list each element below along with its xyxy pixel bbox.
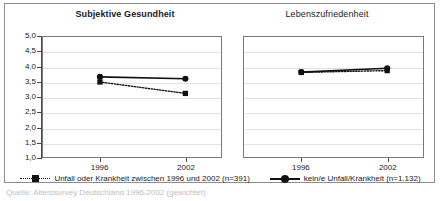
source-note: Quelle: Alterssurvey Deutschland 1996-20… bbox=[6, 188, 206, 197]
x-tick-label: 2002 bbox=[379, 163, 397, 172]
data-point-marker bbox=[183, 91, 188, 96]
y-tick-label: 4,5 bbox=[14, 47, 36, 55]
x-tick-mark bbox=[388, 158, 389, 162]
legend-label-kein-unfall: kein/e Unfall/Krankheit (n=1.132) bbox=[304, 174, 421, 183]
series-layer-left bbox=[43, 37, 221, 157]
legend-label-unfall-krankheit: Unfall oder Krankheit zwischen 1996 und … bbox=[54, 174, 249, 183]
data-point-marker bbox=[97, 74, 103, 80]
y-tick-label: 1,5 bbox=[14, 139, 36, 147]
plot-panel-subjektive-gesundheit bbox=[42, 36, 222, 158]
data-point-marker bbox=[384, 65, 390, 71]
series-line bbox=[100, 82, 185, 93]
series-line bbox=[100, 77, 185, 79]
x-tick-mark bbox=[186, 158, 187, 162]
y-tick-label: 4,0 bbox=[14, 63, 36, 71]
y-tick-label: 3,5 bbox=[14, 78, 36, 86]
panel-title-lebenszufriedenheit: Lebenszufriedenheit bbox=[227, 9, 427, 19]
y-axis-left: 5,04,54,03,53,02,52,01,51,0 bbox=[15, 30, 42, 164]
x-tick-mark bbox=[301, 158, 302, 162]
y-tick-label: 5,0 bbox=[14, 32, 36, 40]
x-tick-label: 2002 bbox=[177, 163, 195, 172]
data-point-marker bbox=[182, 76, 188, 82]
data-point-marker bbox=[97, 79, 102, 84]
legend-entry-unfall-krankheit: Unfall oder Krankheit zwischen 1996 und … bbox=[20, 174, 249, 183]
legend-key-solid-circle-icon bbox=[270, 174, 300, 183]
legend-key-dotted-square-icon bbox=[20, 174, 50, 183]
series-layer-right bbox=[244, 37, 423, 157]
y-tick-label: 2,0 bbox=[14, 124, 36, 132]
chart-figure: Subjektive Gesundheit Lebenszufriedenhei… bbox=[4, 3, 435, 183]
panel-title-subjektive-gesundheit: Subjektive Gesundheit bbox=[25, 9, 225, 19]
x-tick-mark bbox=[100, 158, 101, 162]
x-tick-label: 1996 bbox=[91, 163, 109, 172]
y-tick-label: 2,5 bbox=[14, 108, 36, 116]
plot-panel-lebenszufriedenheit bbox=[243, 36, 424, 158]
x-tick-label: 1996 bbox=[292, 163, 310, 172]
data-point-marker bbox=[298, 69, 304, 75]
y-tick-label: 1,0 bbox=[14, 154, 36, 162]
y-tick-label: 3,0 bbox=[14, 93, 36, 101]
legend-entry-kein-unfall: kein/e Unfall/Krankheit (n=1.132) bbox=[270, 174, 421, 183]
chart-legend: Unfall oder Krankheit zwischen 1996 und … bbox=[11, 172, 430, 185]
